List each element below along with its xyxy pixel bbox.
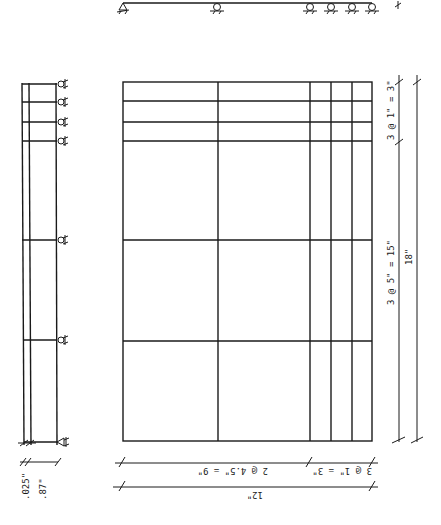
- width-label: .87": [38, 478, 48, 500]
- drawing-canvas: .025" .87" 3 @ 1" = 3" 3 @ 5" = 15" 18": [0, 0, 441, 525]
- side-support-icon: [58, 235, 68, 245]
- top-beam: [117, 1, 401, 14]
- side-section: [18, 79, 69, 466]
- roller-support-icon: [345, 4, 359, 15]
- roller-support-icon: [324, 4, 338, 15]
- roller-support-icon: [365, 4, 379, 15]
- side-support-icon: [58, 335, 68, 345]
- row-total-dim-label: 18": [404, 249, 414, 265]
- pin-support-icon: [117, 3, 129, 14]
- roller-support-icon: [210, 4, 224, 15]
- end-tick-icon: [395, 1, 401, 9]
- side-support-icon: [58, 79, 68, 89]
- row-top-dim-label: 3 @ 1" = 3": [386, 80, 396, 140]
- plate-grid: [123, 82, 372, 441]
- side-support-icon: [57, 437, 69, 447]
- column-left-dim-label: 2 @ 4.5" = 9": [198, 466, 268, 476]
- row-lower-dim-label: 3 @ 5" = 15": [386, 240, 396, 305]
- column-right-dim-label: 3 @ 1" = 3": [312, 466, 372, 476]
- thickness-label: .025": [21, 473, 31, 500]
- side-support-icon: [58, 117, 68, 127]
- roller-support-icon: [303, 4, 317, 15]
- column-total-dim-label: 12": [247, 490, 263, 500]
- side-support-icon: [58, 97, 68, 107]
- side-support-icon: [58, 136, 68, 146]
